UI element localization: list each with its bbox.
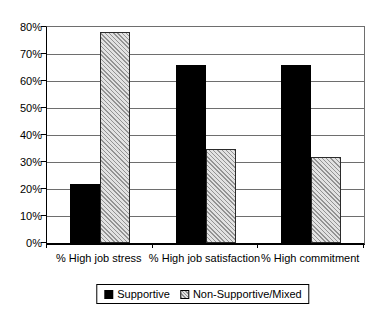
x-tick-mark [46, 244, 47, 248]
gridline-50pct [47, 108, 364, 109]
bar-non-supportive-2 [311, 157, 341, 243]
y-tick-mark [41, 134, 46, 135]
y-tick-mark [41, 53, 46, 54]
y-tick-label: 40% [0, 129, 42, 141]
category-label-2: % High commitment [245, 252, 375, 265]
y-tick-mark [41, 242, 46, 243]
legend-item-non-supportive: Non-Supportive/Mixed [180, 288, 302, 300]
bar-supportive-0 [70, 184, 100, 243]
y-tick-label: 0% [0, 237, 42, 249]
y-tick-label: 20% [0, 183, 42, 195]
y-tick-mark [41, 188, 46, 189]
x-tick-mark [152, 244, 153, 248]
x-tick-mark [257, 244, 258, 248]
legend-label: Supportive [117, 288, 170, 300]
y-tick-mark [41, 161, 46, 162]
y-tick-label: 70% [0, 48, 42, 60]
y-tick-mark [41, 107, 46, 108]
legend-swatch-hatched-icon [180, 290, 189, 299]
y-tick-mark [41, 215, 46, 216]
legend-item-supportive: Supportive [104, 288, 170, 300]
y-tick-label: 80% [0, 21, 42, 33]
legend-label: Non-Supportive/Mixed [193, 288, 302, 300]
plot-area [46, 26, 365, 245]
y-tick-label: 30% [0, 156, 42, 168]
gridline-40pct [47, 135, 364, 136]
bar-chart-figure: 0%10%20%30%40%50%60%70%80% % High job st… [0, 0, 384, 324]
bar-supportive-2 [281, 65, 311, 243]
legend: SupportiveNon-Supportive/Mixed [96, 284, 309, 304]
y-tick-mark [41, 26, 46, 27]
y-tick-mark [41, 80, 46, 81]
y-tick-label: 10% [0, 210, 42, 222]
legend-swatch-solid-icon [104, 290, 113, 299]
y-tick-label: 60% [0, 75, 42, 87]
y-tick-label: 50% [0, 102, 42, 114]
gridline-70pct [47, 54, 364, 55]
bar-non-supportive-0 [100, 32, 130, 243]
bar-non-supportive-1 [206, 149, 236, 244]
x-tick-mark [363, 244, 364, 248]
bar-supportive-1 [176, 65, 206, 243]
gridline-60pct [47, 81, 364, 82]
